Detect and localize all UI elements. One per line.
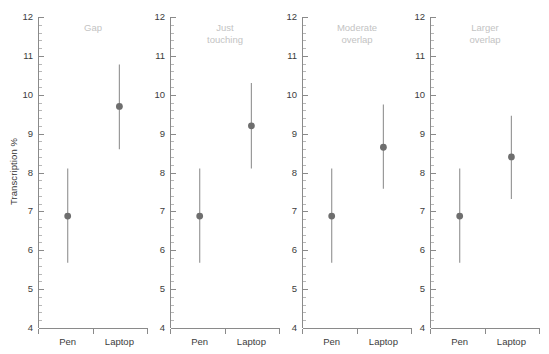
panel-2: 121110987654PenLaptopModerate overlap [302,0,412,354]
chart-figure: Transcription % 121110987654PenLaptopGap… [0,0,549,354]
y-tick-label: 6 [17,244,33,255]
y-axis-label-container: Transcription % [0,0,18,354]
y-tick-label: 8 [149,167,165,178]
panel-plot-area [170,0,280,354]
y-tick-label: 9 [149,128,165,139]
y-tick-label: 9 [281,128,297,139]
panel-plot-area [38,0,148,354]
y-tick-label: 11 [149,50,165,61]
panel-title: Just touching [170,22,280,46]
panel-title: Moderate overlap [302,22,412,46]
x-tick-label-pen: Pen [435,336,485,347]
y-tick-label: 8 [409,167,425,178]
x-tick-label-laptop: Laptop [358,336,408,347]
y-tick-label: 6 [281,244,297,255]
mean-marker [508,154,515,161]
y-tick-label: 12 [17,11,33,22]
y-tick-label: 7 [409,205,425,216]
panel-3: 121110987654PenLaptopLarger overlap [430,0,540,354]
y-tick-label: 4 [149,322,165,333]
y-tick-label: 4 [17,322,33,333]
y-tick-label: 4 [409,322,425,333]
x-tick-label-laptop: Laptop [226,336,276,347]
y-tick-label: 12 [409,11,425,22]
y-tick-label: 10 [281,89,297,100]
panel-plot-area [430,0,540,354]
y-tick-label: 12 [281,11,297,22]
x-tick-label-pen: Pen [175,336,225,347]
y-tick-label: 7 [17,205,33,216]
mean-marker [248,122,255,129]
mean-marker [328,213,335,220]
panel-title: Larger overlap [430,22,540,46]
y-tick-label: 7 [281,205,297,216]
y-tick-label: 12 [149,11,165,22]
y-tick-label: 8 [281,167,297,178]
panel-title: Gap [38,22,148,34]
mean-marker [380,144,387,151]
y-tick-label: 11 [17,50,33,61]
mean-marker [196,213,203,220]
panel-plot-area [302,0,412,354]
y-tick-label: 6 [409,244,425,255]
y-tick-label: 9 [17,128,33,139]
y-tick-label: 5 [17,283,33,294]
y-tick-label: 10 [409,89,425,100]
y-tick-label: 5 [281,283,297,294]
x-tick-label-pen: Pen [307,336,357,347]
x-tick-label-laptop: Laptop [94,336,144,347]
y-tick-label: 11 [281,50,297,61]
y-tick-label: 4 [281,322,297,333]
y-tick-label: 7 [149,205,165,216]
y-tick-label: 9 [409,128,425,139]
y-tick-label: 11 [409,50,425,61]
mean-marker [116,103,123,110]
mean-marker [456,213,463,220]
mean-marker [64,213,71,220]
panel-1: 121110987654PenLaptopJust touching [170,0,280,354]
y-tick-label: 5 [409,283,425,294]
x-tick-label-pen: Pen [43,336,93,347]
y-tick-label: 10 [149,89,165,100]
y-tick-label: 5 [149,283,165,294]
y-tick-label: 6 [149,244,165,255]
panel-0: 121110987654PenLaptopGap [38,0,148,354]
y-tick-label: 8 [17,167,33,178]
y-tick-label: 10 [17,89,33,100]
x-tick-label-laptop: Laptop [486,336,536,347]
